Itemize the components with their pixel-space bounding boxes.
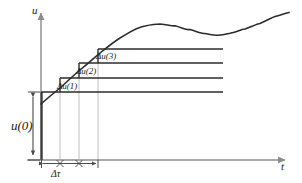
initial-value-label: u(0) (11, 118, 33, 134)
figure-svg (0, 0, 302, 183)
response-curve (41, 12, 289, 104)
dtau-dimension-span (42, 160, 99, 169)
x-axis-label: t (281, 160, 284, 172)
increment-label-1: Δu(1) (57, 81, 77, 91)
increment-label-3: Δu(3) (96, 51, 116, 61)
figure-canvas: u t u(0) Δτ Δu(1) Δu(2) Δu(3) (0, 0, 302, 183)
increment-label-2: Δu(2) (76, 66, 96, 76)
y-axis-label: u (32, 4, 38, 16)
step-width-label: Δτ (51, 168, 60, 179)
